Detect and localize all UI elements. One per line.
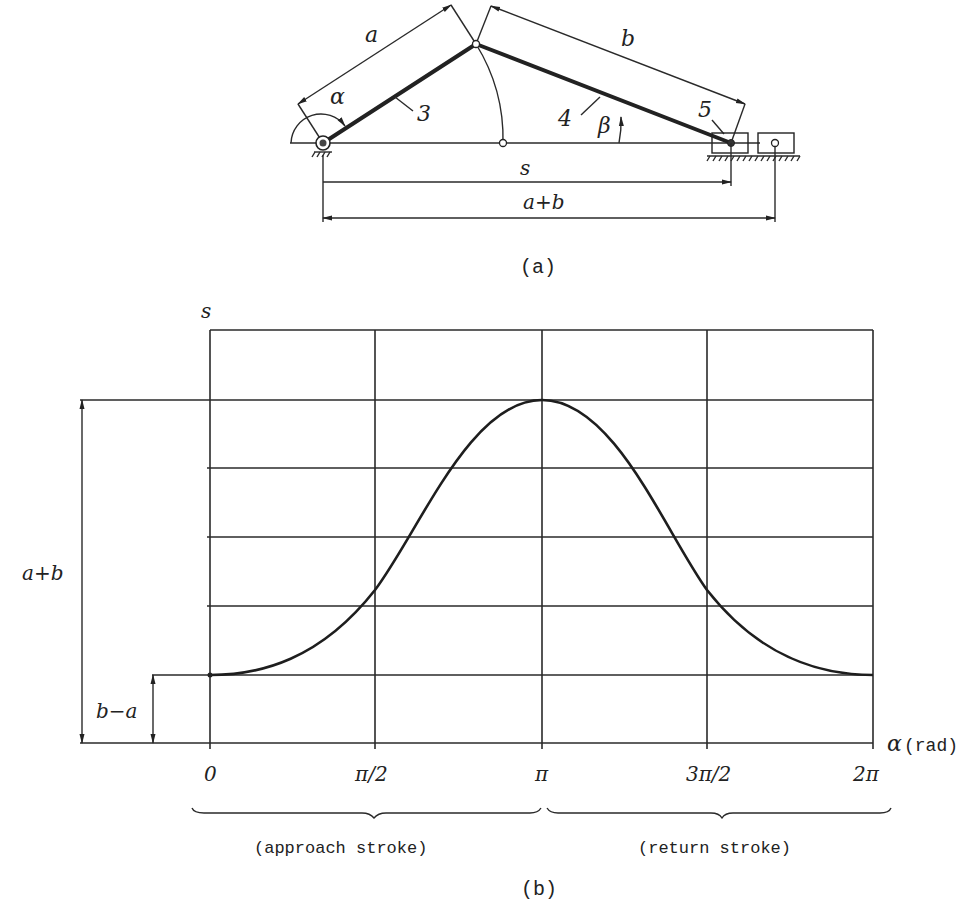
label-a-plus-b: a+b [523, 190, 564, 214]
label-a: a [365, 22, 378, 47]
label-part-4: 4 [557, 106, 572, 131]
leader-5 [712, 120, 724, 134]
dim-max-label: a+b [22, 561, 63, 585]
dim-a-line [298, 5, 451, 104]
dim-a-ext2 [451, 5, 476, 44]
x-tick-pi2: π/2 [354, 762, 388, 786]
x-tick-pi: π [534, 762, 549, 786]
label-approach-stroke: (approach stroke) [254, 839, 427, 858]
dim-min-label: b−a [96, 699, 137, 723]
figure-canvas: a b α 3 4 β 5 s a+b (a) s a+b b−a [0, 0, 977, 918]
label-beta: β [597, 113, 611, 138]
label-part-3: 3 [417, 101, 431, 126]
x-axis-unit: (rad) [904, 736, 958, 756]
label-alpha: α [330, 84, 345, 109]
label-b: b [621, 26, 635, 51]
label-return-stroke: (return stroke) [638, 839, 791, 858]
caption-a: (a) [520, 256, 556, 279]
leader-3 [395, 97, 413, 111]
slider-extreme-pin [772, 140, 779, 147]
x-tick-3pi2: 3π/2 [686, 762, 731, 786]
x-axis-label: α [887, 731, 902, 756]
x-tick-2pi: 2π [852, 762, 880, 786]
linkage-diagram: a b α 3 4 β 5 s a+b (a) [290, 5, 800, 279]
dim-b-line [491, 6, 745, 104]
displacement-chart: s a+b b−a 0 π/2 π 3π/2 2π α (rad) [22, 299, 958, 901]
beta-arc [619, 117, 621, 143]
arc-end-joint [500, 140, 507, 147]
y-axis-label: s [201, 299, 211, 323]
curve-start-point [208, 673, 213, 678]
dim-b-ext2 [731, 104, 745, 143]
label-part-5: 5 [698, 97, 712, 122]
x-tick-0: 0 [204, 762, 217, 786]
brace-approach [192, 808, 541, 818]
label-s: s [520, 156, 530, 180]
brace-return [547, 808, 891, 818]
slider-ground [707, 156, 800, 161]
swing-arc [476, 44, 503, 143]
joint-crank-rod [473, 41, 480, 48]
crank-link-3 [323, 44, 476, 143]
caption-b: (b) [521, 878, 557, 901]
ground-pivot [312, 136, 332, 157]
dim-b-ext1 [476, 6, 491, 44]
